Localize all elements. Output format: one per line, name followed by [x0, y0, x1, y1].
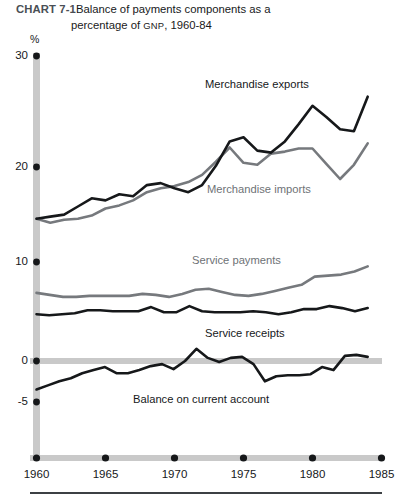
- series-label-merchandise-imports: Merchandise imports: [207, 183, 311, 195]
- x-axis-bar: [30, 455, 382, 461]
- series-label-merchandise-exports: Merchandise exports: [205, 78, 309, 90]
- bottom-divider: [30, 492, 382, 494]
- x-tick-label-1975: 1975: [221, 468, 267, 480]
- x-tick-label-1980: 1980: [290, 468, 336, 480]
- x-tick-label-1960: 1960: [14, 468, 60, 480]
- y-tick-dot-20: [33, 164, 40, 171]
- x-tick-dot-1980: [309, 454, 316, 461]
- line-merchandise-exports: [37, 97, 368, 219]
- zero-line: [30, 358, 382, 364]
- x-tick-label-1985: 1985: [359, 468, 405, 480]
- x-tick-label-1965: 1965: [83, 468, 129, 480]
- series-label-service-payments: Service payments: [192, 254, 281, 266]
- line-service-payments: [37, 266, 368, 297]
- series-label-balance-on-current-account: Balance on current account: [133, 393, 269, 405]
- y-tick-dot-10: [33, 259, 40, 266]
- x-tick-dot-1960: [33, 454, 40, 461]
- plot-area: [0, 0, 412, 503]
- series-label-service-receipts: Service receipts: [205, 327, 285, 339]
- x-tick-label-1970: 1970: [152, 468, 198, 480]
- chart-svg: [0, 0, 412, 503]
- y-tick-label-0: 0: [2, 354, 28, 366]
- x-tick-dot-1985: [378, 454, 385, 461]
- line-balance-on-current-account: [37, 349, 368, 390]
- y-tick-dot-0: [33, 358, 40, 365]
- y-axis-bar: [33, 53, 40, 458]
- y-tick-dot-30: [33, 53, 40, 60]
- y-tick-label-10: 10: [2, 255, 28, 267]
- y-tick-label-minus5: -5: [2, 395, 28, 407]
- y-tick-label-30: 30: [2, 49, 28, 61]
- line-service-receipts: [37, 306, 368, 315]
- y-tick-label-20: 20: [2, 160, 28, 172]
- x-tick-dot-1970: [171, 454, 178, 461]
- series-lines: [37, 97, 368, 390]
- x-tick-dot-1975: [240, 454, 247, 461]
- chart-container: CHART 7-1Balance of payments components …: [0, 0, 412, 503]
- x-tick-dot-1965: [102, 454, 109, 461]
- y-tick-dot-minus5: [33, 399, 40, 406]
